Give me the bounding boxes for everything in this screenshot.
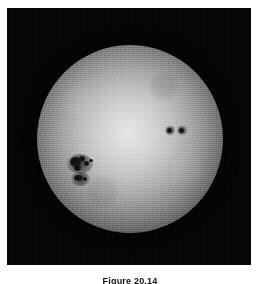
sunspot-umbra: [74, 175, 83, 181]
figure-caption: Figure 20.14: [0, 276, 260, 284]
figure-container: Figure 20.14: [0, 0, 260, 284]
small-sunspot-pair: [165, 124, 189, 138]
sunspot-umbra: [89, 159, 93, 162]
sunspot-umbra: [84, 161, 89, 166]
disk-mottling-texture: [37, 45, 223, 233]
solar-disk: [37, 45, 223, 233]
sunspot-umbra: [83, 177, 87, 181]
sunspot-umbra: [167, 128, 172, 133]
sunspot-umbra: [179, 128, 184, 133]
sunspot-umbra: [74, 165, 81, 171]
large-sunspot-group: [65, 150, 105, 192]
solar-photograph-plate: [7, 8, 251, 265]
photospheric-granulation-texture: [37, 45, 223, 233]
